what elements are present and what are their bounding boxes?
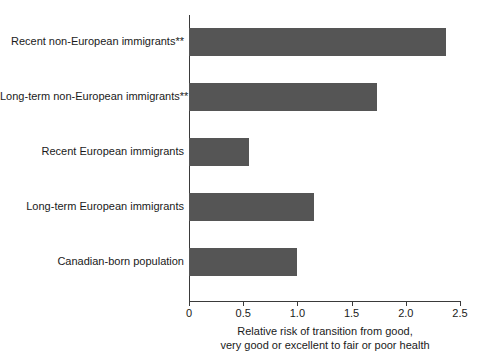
x-tick-mark bbox=[243, 301, 244, 306]
x-axis-title: Relative risk of transition from good, v… bbox=[189, 324, 461, 352]
x-tick-mark bbox=[352, 301, 353, 306]
x-axis-title-line2: very good or excellent to fair or poor h… bbox=[189, 338, 461, 352]
x-tick-label: 2.5 bbox=[440, 307, 480, 320]
x-tick-label: 0 bbox=[169, 307, 209, 320]
bar-fill bbox=[189, 83, 377, 111]
category-label: Recent non-European immigrants** bbox=[0, 35, 184, 48]
x-tick-label: 0.5 bbox=[223, 307, 263, 320]
bar bbox=[189, 28, 446, 56]
chart-figure: Recent non-European immigrants**Long-ter… bbox=[0, 0, 480, 363]
bar bbox=[189, 83, 377, 111]
category-label: Recent European immigrants bbox=[0, 145, 184, 158]
bar bbox=[189, 138, 249, 166]
bar-fill bbox=[189, 28, 446, 56]
x-tick-mark bbox=[189, 301, 190, 306]
bar-fill bbox=[189, 193, 314, 221]
x-tick-mark bbox=[460, 301, 461, 306]
bar-fill bbox=[189, 138, 249, 166]
x-tick-label: 2.0 bbox=[386, 307, 426, 320]
bar bbox=[189, 193, 314, 221]
bar-fill bbox=[189, 248, 297, 276]
x-tick-label: 1.0 bbox=[277, 307, 317, 320]
x-tick-label: 1.5 bbox=[332, 307, 372, 320]
category-label: Long-term non-European immigrants** bbox=[0, 90, 184, 103]
bar bbox=[189, 248, 297, 276]
x-tick-mark bbox=[406, 301, 407, 306]
category-label: Long-term European immigrants bbox=[0, 200, 184, 213]
x-axis-title-line1: Relative risk of transition from good, bbox=[189, 324, 461, 338]
x-axis-line bbox=[189, 301, 461, 302]
x-tick-mark bbox=[297, 301, 298, 306]
category-label: Canadian-born population bbox=[0, 255, 184, 268]
